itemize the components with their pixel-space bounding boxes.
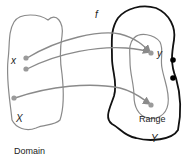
codomain-set-label: Y [151, 133, 159, 144]
domain-point-3 [11, 95, 16, 100]
element-y-label: y [156, 48, 163, 59]
function-label: f [95, 9, 99, 20]
domain-point-2 [23, 66, 28, 71]
mapping-arrow-upper [27, 33, 150, 58]
domain-point-1 [23, 55, 28, 60]
codomain-point-2 [170, 75, 176, 81]
function-mapping-diagram: f x y X Range Y Domain [0, 0, 186, 161]
range-point-y [148, 50, 153, 55]
range-point-lower [148, 102, 153, 107]
domain-set-label: X [15, 113, 23, 124]
mapping-arrow-lower [15, 85, 150, 104]
mapping-arrow-middle [27, 48, 150, 69]
element-x-label: x [10, 55, 17, 66]
domain-caption: Domain [14, 146, 45, 156]
codomain-point-1 [170, 57, 176, 63]
range-label: Range [139, 114, 166, 124]
